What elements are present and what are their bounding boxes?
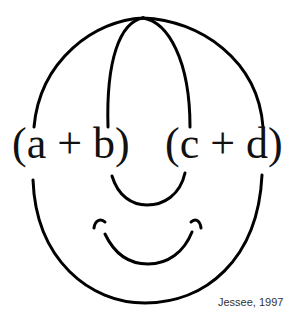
bottom-outer-arc [33,175,262,303]
smile-arc [105,232,192,264]
top-inner-right-arc [143,18,190,127]
left-eye-hook [94,220,105,228]
smiley-string-diagram: (a + b) (c + d) Jessee, 1997 [0,0,302,322]
credit-caption: Jessee, 1997 [218,296,283,308]
expression-c-plus-d: (c + d) [165,122,283,166]
top-outer-right-arc [143,18,263,127]
top-outer-left-arc [34,18,143,127]
right-eye-hook [191,220,201,228]
expression-a-plus-b: (a + b) [12,122,130,166]
nose-arc [112,173,185,205]
top-inner-left-arc [108,18,143,127]
